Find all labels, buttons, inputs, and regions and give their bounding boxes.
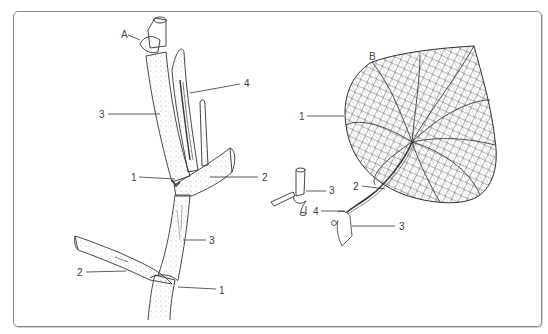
botanical-illustration bbox=[0, 0, 548, 334]
node-detail bbox=[271, 168, 306, 216]
label-a-1-upper-node: 1 bbox=[131, 173, 137, 183]
panel-b-letter: B bbox=[369, 52, 376, 62]
label-node-3: 3 bbox=[329, 186, 335, 196]
label-a-1-lower-node: 1 bbox=[219, 286, 225, 296]
label-a-3-internode: 3 bbox=[209, 236, 215, 246]
panel-a-letter: A bbox=[121, 30, 128, 40]
label-b-4-stipule: 4 bbox=[313, 207, 319, 217]
label-b-3-stem: 3 bbox=[399, 222, 405, 232]
label-b-1-blade: 1 bbox=[299, 112, 305, 122]
label-a-4-bud: 4 bbox=[244, 79, 250, 89]
leaf-illustration-b bbox=[332, 46, 497, 246]
label-a-3-upper-stem: 3 bbox=[99, 110, 105, 120]
label-a-2-branch: 2 bbox=[77, 268, 83, 278]
label-b-2-petiole: 2 bbox=[353, 182, 359, 192]
stem-illustration-a bbox=[75, 17, 235, 320]
label-a-2-leaf-base: 2 bbox=[262, 173, 268, 183]
